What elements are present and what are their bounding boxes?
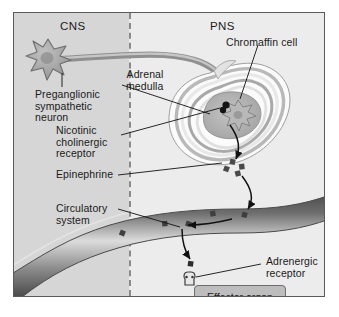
adrenergic-receptor-label: Adrenergic receptor [266, 256, 318, 279]
circulatory-system-label: Circulatory system [56, 203, 107, 226]
nicotinic-receptor-label: Nicotinic cholinergic receptor [56, 125, 107, 160]
diagram-frame: CNS PNS Preganglionic sympathetic neuron… [13, 12, 325, 297]
effector-organ-box: Effector organ [194, 285, 286, 297]
chromaffin-cell-label: Chromaffin cell [226, 37, 297, 49]
figure-root: CNS PNS Preganglionic sympathetic neuron… [0, 0, 339, 317]
epinephrine-label: Epinephrine [56, 169, 113, 181]
adrenergic-receptor-glyph [184, 272, 195, 285]
preganglionic-neuron-soma [26, 39, 71, 80]
adrenal-medulla-label: Adrenal medulla [126, 69, 163, 92]
preganglionic-neuron-label: Preganglionic sympathetic neuron [35, 89, 100, 124]
effector-organ-label: Effector organ [207, 291, 273, 298]
cns-header-label: CNS [60, 21, 85, 33]
pns-header-label: PNS [210, 21, 235, 33]
